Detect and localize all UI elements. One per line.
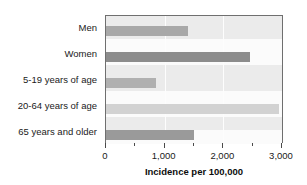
tick-3000 bbox=[281, 143, 282, 148]
category-label: 65 years and older bbox=[18, 127, 97, 137]
category-label: Women bbox=[64, 49, 97, 59]
category-axis-labels: Men Women 5-19 years of age 20-64 years … bbox=[0, 15, 101, 143]
tick-1000 bbox=[164, 143, 165, 148]
bar-65-older bbox=[106, 130, 194, 140]
bar-women bbox=[106, 52, 250, 62]
tick-minor-2500 bbox=[252, 143, 253, 146]
xtick-label: 2,000 bbox=[210, 150, 234, 161]
tick-0 bbox=[105, 143, 106, 148]
category-label: 20-64 years of age bbox=[18, 101, 97, 111]
x-axis-title: Incidence per 100,000 bbox=[105, 166, 283, 177]
xtick-label: 0 bbox=[102, 150, 107, 161]
bar-chart: Men Women 5-19 years of age 20-64 years … bbox=[0, 0, 307, 185]
xtick-label: 3,000 bbox=[269, 150, 293, 161]
bar-men bbox=[106, 26, 188, 36]
tick-minor-500 bbox=[134, 143, 135, 146]
category-label: 5-19 years of age bbox=[23, 75, 97, 85]
category-label: Men bbox=[79, 23, 97, 33]
gridline-2000 bbox=[223, 16, 224, 142]
tick-2000 bbox=[222, 143, 223, 148]
bar-20-64 bbox=[106, 104, 279, 114]
plot-area bbox=[105, 15, 283, 143]
tick-minor-1500 bbox=[193, 143, 194, 146]
xtick-label: 1,000 bbox=[152, 150, 176, 161]
bar-5-19 bbox=[106, 78, 156, 88]
